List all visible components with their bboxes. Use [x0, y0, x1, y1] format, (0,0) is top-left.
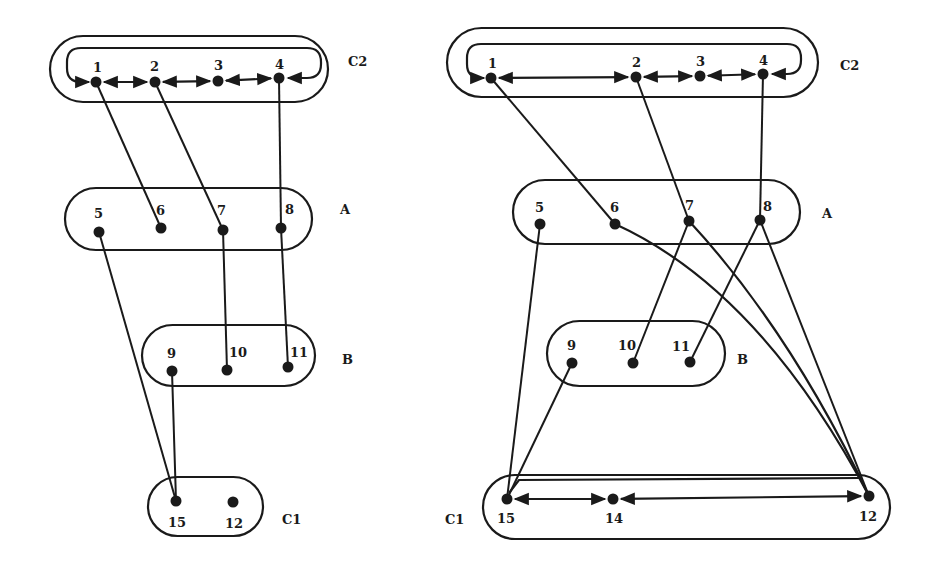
node-label: 3 [214, 58, 223, 73]
bidirectional-edge-1-2 [499, 77, 628, 78]
node-label: 12 [859, 509, 877, 524]
diagram-canvas: C2ABC112345678910111512 C2ABC11234567891… [0, 0, 928, 574]
node-label: 6 [610, 200, 619, 215]
node-label: 6 [156, 203, 165, 218]
group-c1-enclosure [483, 475, 890, 539]
node-14 [608, 494, 619, 505]
node-label: 10 [618, 338, 636, 353]
node-label: 3 [696, 54, 705, 69]
left-diagram: C2ABC112345678910111512 [50, 36, 367, 536]
edge-5-15 [99, 232, 176, 501]
group-label: B [737, 352, 748, 367]
node-9 [167, 366, 178, 377]
node-label: 15 [497, 511, 515, 526]
node-label: 7 [217, 203, 226, 218]
edge-9-15 [172, 371, 176, 501]
node-6 [156, 223, 167, 234]
bidirectional-edge-14-12 [621, 496, 861, 499]
node-12 [228, 497, 239, 508]
bidirectional-edge-2-3 [163, 81, 210, 82]
node-2 [631, 72, 642, 83]
node-10 [628, 358, 639, 369]
edge-4-8 [279, 78, 281, 228]
node-15 [502, 494, 513, 505]
node-label: 7 [685, 198, 694, 213]
node-label: 2 [632, 55, 641, 70]
node-5 [535, 219, 546, 230]
group-label: B [342, 352, 353, 367]
node-label: 5 [535, 200, 544, 215]
node-label: 2 [150, 59, 159, 74]
bidirectional-edge-2-3 [644, 76, 692, 77]
node-7 [218, 225, 229, 236]
node-12 [864, 491, 875, 502]
node-9 [567, 358, 578, 369]
node-label: 9 [567, 338, 576, 353]
node-label: 9 [167, 346, 176, 361]
group-label: C2 [840, 58, 859, 73]
node-label: 12 [225, 516, 243, 531]
edge-8-11 [690, 220, 760, 362]
node-2 [150, 77, 161, 88]
edge-2-7 [636, 77, 689, 221]
node-3 [695, 71, 706, 82]
group-label: A [821, 206, 833, 221]
node-label: 4 [759, 53, 768, 68]
group-c1-enclosure [148, 477, 263, 536]
group-a-enclosure [513, 180, 800, 244]
node-label: 8 [763, 199, 772, 214]
edge-8-12 [760, 220, 869, 496]
node-label: 11 [290, 345, 308, 360]
node-5 [94, 227, 105, 238]
node-label: 15 [168, 515, 186, 530]
node-label: 1 [488, 56, 497, 71]
edge-1-6 [491, 78, 615, 224]
node-7 [684, 216, 695, 227]
node-label: 5 [94, 206, 103, 221]
group-label: C2 [348, 54, 367, 69]
node-8 [755, 215, 766, 226]
bidirectional-edge-3-4 [226, 78, 271, 80]
node-15 [171, 496, 182, 507]
node-8 [276, 223, 287, 234]
node-label: 14 [605, 511, 623, 526]
edge-2-7 [155, 82, 223, 230]
c1-top-link [509, 478, 859, 493]
edge-9-15 [507, 363, 572, 499]
node-11 [685, 357, 696, 368]
group-c2-enclosure [50, 36, 328, 102]
node-1 [486, 73, 497, 84]
node-3 [213, 76, 224, 87]
edge-5-15 [507, 224, 540, 499]
node-label: 8 [285, 202, 294, 217]
node-11 [283, 362, 294, 373]
node-label: 1 [93, 60, 102, 75]
node-10 [222, 365, 233, 376]
right-diagram: C2ABC11234567891011151412 [445, 28, 890, 539]
node-label: 10 [229, 345, 247, 360]
node-4 [758, 69, 769, 80]
edge-1-6 [96, 82, 161, 228]
node-4 [274, 73, 285, 84]
bidirectional-edge-3-4 [708, 74, 755, 75]
group-label: A [339, 202, 351, 217]
node-1 [91, 77, 102, 88]
group-label: C1 [445, 512, 464, 527]
group-label: C1 [282, 512, 301, 527]
node-label: 4 [275, 57, 284, 72]
node-6 [610, 219, 621, 230]
node-label: 11 [672, 339, 690, 354]
